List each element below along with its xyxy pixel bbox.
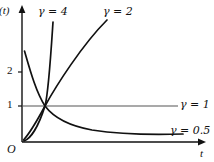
y-tick-label-1: 1 — [7, 99, 13, 110]
x-axis-label: t — [200, 148, 203, 159]
curve-label-gamma-2: γ = 2 — [103, 6, 133, 17]
curve-label-gamma-1: γ = 1 — [180, 99, 210, 110]
x-axis-arrowhead — [198, 139, 206, 146]
curve-label-gamma-0-5: γ = 0.5 — [170, 125, 210, 136]
curve-gamma-4 — [24, 22, 53, 141]
x-axis — [22, 139, 206, 146]
y-axis — [19, 5, 26, 142]
plot-canvas — [0, 0, 214, 162]
y-tick-label-2: 2 — [7, 65, 13, 76]
curve-label-gamma-4: γ = 4 — [38, 6, 68, 17]
y-axis-label: (t) — [0, 5, 9, 16]
figure-container: (t) t O 2 1 γ = 4 γ = 2 γ = 1 γ = 0.5 — [0, 0, 214, 162]
y-axis-arrowhead — [19, 5, 26, 13]
origin-label: O — [7, 143, 16, 155]
curve-gamma-0-5 — [25, 51, 184, 134]
